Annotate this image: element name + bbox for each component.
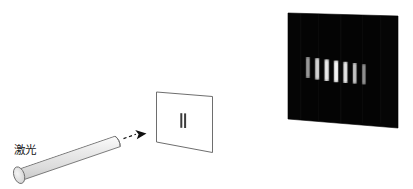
slit-right	[184, 113, 186, 128]
laser-source: 激光	[11, 134, 120, 185]
figure-canvas: 激光	[0, 0, 413, 189]
slit-screen	[157, 92, 213, 153]
beam-dashed-line	[124, 134, 137, 138]
fringe-3	[323, 59, 331, 81]
fringe-7	[361, 64, 367, 84]
slit-left	[180, 113, 182, 128]
fringe-4	[332, 61, 340, 83]
fringe-6	[351, 63, 358, 84]
laser-label: 激光	[14, 143, 37, 157]
beam-path	[124, 130, 147, 139]
fringe-1	[305, 57, 312, 78]
double-slit-experiment-figure: 激光	[0, 0, 413, 189]
fringe-5	[342, 62, 349, 83]
beam-arrowhead-icon	[135, 130, 146, 139]
fringe-2	[314, 58, 321, 79]
observation-screen	[288, 13, 398, 128]
